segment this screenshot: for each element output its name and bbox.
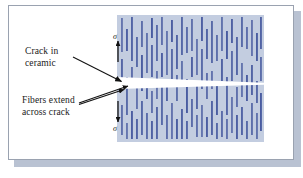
fiber <box>236 87 238 107</box>
fiber <box>136 119 138 139</box>
fiber <box>256 113 258 139</box>
fiber <box>186 79 188 113</box>
fiber <box>181 61 183 83</box>
fiber <box>211 21 213 63</box>
fiber <box>221 111 223 137</box>
fiber <box>141 101 143 135</box>
fiber <box>221 17 223 51</box>
fiber <box>216 123 218 139</box>
fiber <box>166 81 168 101</box>
fiber <box>161 53 163 77</box>
fiber <box>171 103 173 139</box>
fiber <box>251 65 253 95</box>
fiber <box>241 107 243 135</box>
fiber <box>226 31 228 59</box>
fiber <box>121 59 123 85</box>
fiber <box>126 77 128 115</box>
fiber <box>121 105 123 135</box>
fiber <box>176 35 178 69</box>
fiber-composite-block <box>117 15 264 142</box>
fiber <box>201 105 203 137</box>
label-crack-line2: ceramic <box>25 58 58 70</box>
fiber <box>211 71 213 89</box>
fiber <box>236 115 238 139</box>
fiber <box>156 25 158 61</box>
fiber <box>206 29 208 59</box>
fiber <box>181 109 183 139</box>
fiber <box>206 73 208 99</box>
fiber <box>141 55 143 91</box>
fiber <box>186 27 188 53</box>
fiber <box>176 75 178 101</box>
fiber <box>166 31 168 75</box>
fiber <box>231 19 233 43</box>
label-fibers-across-crack: Fibers extend across crack <box>22 95 75 118</box>
fiber <box>126 123 128 139</box>
fiber <box>131 17 133 61</box>
fiber <box>260 93 262 131</box>
fiber <box>246 27 248 49</box>
fiber <box>166 115 168 139</box>
fiber <box>151 18 153 38</box>
figure-root: Crack in ceramic Fibers extend across cr… <box>0 0 303 178</box>
fiber <box>211 101 213 135</box>
fiber <box>216 35 218 61</box>
stress-symbol-bottom: σ <box>113 124 117 133</box>
fiber <box>191 57 193 77</box>
fiber <box>246 121 248 139</box>
fiber <box>131 111 133 139</box>
fiber <box>226 77 228 115</box>
fiber <box>171 49 173 79</box>
fiber <box>191 99 193 127</box>
fiber <box>171 20 173 42</box>
fiber <box>251 20 253 56</box>
label-fibers-line1: Fibers extend <box>22 95 75 107</box>
fiber <box>146 113 148 139</box>
label-crack-line1: Crack in <box>25 46 58 58</box>
fiber <box>176 119 178 139</box>
fiber <box>231 51 233 81</box>
fiber <box>231 97 233 133</box>
fiber <box>201 17 203 41</box>
fiber <box>196 85 198 109</box>
fiber <box>121 18 123 52</box>
fiber <box>131 67 133 87</box>
fiber <box>151 121 153 139</box>
fiber <box>156 71 158 99</box>
fiber <box>146 81 148 99</box>
fiber <box>196 115 198 137</box>
fiber <box>236 37 238 75</box>
fiber <box>246 75 248 101</box>
fiber <box>260 17 262 49</box>
fiber <box>136 85 138 109</box>
fiber-pattern <box>117 15 264 142</box>
fiber <box>196 39 198 75</box>
fiber <box>186 121 188 139</box>
fiber <box>151 45 153 77</box>
fiber <box>181 17 183 55</box>
fiber <box>136 37 138 67</box>
fiber <box>241 63 243 97</box>
fiber <box>201 49 203 89</box>
fiber <box>141 21 143 47</box>
fiber <box>216 83 218 115</box>
fiber <box>241 17 243 47</box>
fiber <box>146 33 148 73</box>
fiber <box>221 59 223 81</box>
fiber <box>191 19 193 51</box>
label-fibers-line2: across crack <box>22 107 75 119</box>
fiber <box>256 33 258 61</box>
fiber <box>161 85 163 125</box>
fiber <box>156 107 158 139</box>
stress-symbol-top: σ <box>113 32 117 41</box>
label-crack-in-ceramic: Crack in ceramic <box>25 46 58 69</box>
fiber <box>260 57 262 81</box>
fiber <box>256 81 258 103</box>
fiber <box>151 91 153 113</box>
fiber <box>206 117 208 137</box>
fiber <box>226 119 228 139</box>
fiber <box>161 17 163 45</box>
fiber <box>126 29 128 51</box>
fiber <box>251 103 253 135</box>
